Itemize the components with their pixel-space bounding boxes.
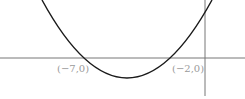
root-label-right: (−2,0) [172, 63, 204, 74]
root-label-left: (−7,0) [57, 63, 89, 74]
parabola-plot [0, 0, 245, 99]
